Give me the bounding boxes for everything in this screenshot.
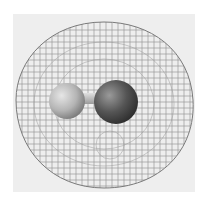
molecule-illustration <box>0 0 208 200</box>
atom-left <box>49 83 85 119</box>
atom-right <box>94 80 138 124</box>
